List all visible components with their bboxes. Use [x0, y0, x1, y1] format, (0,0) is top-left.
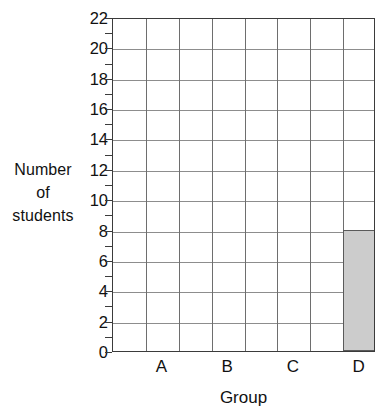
x-axis-tick-label-a: A: [144, 357, 178, 377]
gridline-vertical: [277, 19, 278, 351]
y-axis-minor-tick: [105, 155, 112, 156]
x-axis-title: Group: [112, 388, 375, 408]
bar-chart: Number of students 0246810121416182022 A…: [0, 0, 380, 415]
y-axis-major-tick: [105, 139, 112, 140]
y-axis-minor-tick: [105, 337, 112, 338]
y-axis-tick-label: 4: [68, 283, 108, 299]
y-axis-minor-tick: [105, 33, 112, 34]
gridline-horizontal: [113, 262, 374, 263]
y-axis-major-tick: [105, 200, 112, 201]
gridline-horizontal: [113, 110, 374, 111]
y-axis-tick-label: 14: [68, 131, 108, 147]
y-axis-minor-tick: [105, 306, 112, 307]
y-axis-major-tick: [105, 79, 112, 80]
gridline-horizontal: [113, 201, 374, 202]
y-axis-tick-label: 10: [68, 192, 108, 208]
y-axis-tick-label: 20: [68, 40, 108, 56]
x-axis-tick-label-b: B: [210, 357, 244, 377]
y-axis-tick-label: 16: [68, 101, 108, 117]
y-axis-minor-tick: [105, 276, 112, 277]
gridline-horizontal: [113, 49, 374, 50]
y-axis-minor-tick: [105, 185, 112, 186]
gridline-horizontal: [113, 232, 374, 233]
y-axis-tick-label: 18: [68, 71, 108, 87]
x-axis-tick-label-c: C: [276, 357, 310, 377]
y-axis-minor-tick: [105, 94, 112, 95]
gridline-vertical: [310, 19, 311, 351]
y-axis-major-tick: [105, 48, 112, 49]
x-axis-tick-label-d: D: [342, 357, 376, 377]
gridline-vertical: [245, 19, 246, 351]
gridline-vertical: [146, 19, 147, 351]
y-axis-major-tick: [105, 109, 112, 110]
y-axis-minor-tick: [105, 64, 112, 65]
y-axis-tick-label: 0: [68, 344, 108, 360]
y-axis-tick-label: 12: [68, 162, 108, 178]
y-axis-tick-label: 8: [68, 223, 108, 239]
y-axis-major-tick: [105, 352, 112, 353]
gridline-vertical: [179, 19, 180, 351]
y-axis-major-tick: [105, 18, 112, 19]
y-axis-minor-tick: [105, 215, 112, 216]
bar-d: [343, 230, 375, 351]
y-axis-minor-tick: [105, 124, 112, 125]
y-axis-major-tick: [105, 261, 112, 262]
y-axis-major-tick: [105, 322, 112, 323]
y-axis-major-tick: [105, 231, 112, 232]
y-axis-tick-label: 6: [68, 253, 108, 269]
gridline-vertical: [212, 19, 213, 351]
gridline-horizontal: [113, 292, 374, 293]
y-axis-tick-labels: 0246810121416182022: [62, 18, 108, 352]
y-axis-tick-label: 2: [68, 314, 108, 330]
y-axis-minor-tick: [105, 246, 112, 247]
y-axis-major-tick: [105, 170, 112, 171]
gridline-horizontal: [113, 80, 374, 81]
gridline-horizontal: [113, 323, 374, 324]
gridline-horizontal: [113, 171, 374, 172]
gridline-horizontal: [113, 140, 374, 141]
y-axis-major-tick: [105, 291, 112, 292]
y-axis-tick-label: 22: [68, 10, 108, 26]
plot-area: [112, 18, 375, 352]
